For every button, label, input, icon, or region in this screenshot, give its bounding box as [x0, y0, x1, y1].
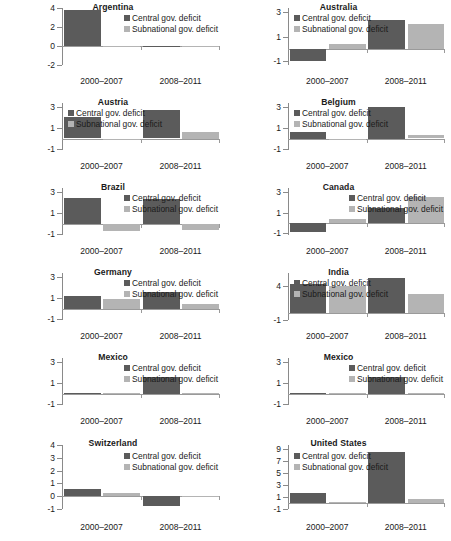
bar-subnational-1 — [329, 502, 365, 503]
legend: Central gov. deficitSubnational gov. def… — [124, 363, 218, 384]
y-axis-line — [62, 358, 63, 405]
legend-label: Central gov. deficit — [357, 363, 426, 374]
x-tick — [444, 223, 445, 227]
y-tick-label: 7 — [276, 456, 281, 466]
y-tick — [283, 449, 288, 450]
y-tick-label: 1 — [276, 378, 281, 388]
legend-item-sub: Subnational gov. deficit — [349, 204, 443, 215]
y-tick-label: -1 — [273, 144, 281, 154]
y-tick-label: 0 — [50, 491, 55, 501]
x-axis-label-2: 2008–2011 — [385, 76, 427, 86]
y-tick — [283, 473, 288, 474]
y-tick-label: 3 — [50, 453, 55, 463]
x-tick — [141, 224, 142, 228]
x-axis-label-1: 2000–2007 — [80, 416, 123, 426]
legend-label: Subnational gov. deficit — [302, 462, 388, 473]
x-tick — [219, 496, 220, 500]
y-tick-label: 3 — [50, 187, 55, 197]
bar-subnational-2 — [408, 499, 444, 503]
legend-item-central: Central gov. deficit — [124, 13, 218, 24]
y-tick-label: 1 — [276, 208, 281, 218]
y-tick — [57, 298, 62, 299]
x-axis-label-1: 2000–2007 — [306, 76, 349, 86]
legend-item-sub: Subnational gov. deficit — [294, 24, 388, 35]
y-tick — [57, 149, 62, 150]
bar-subnational-2 — [408, 24, 444, 49]
chart-panel-australia: Australia31-12000–20072008–2011Central g… — [226, 0, 451, 95]
x-tick — [141, 309, 142, 313]
y-tick — [57, 383, 62, 384]
y-tick-label: -2 — [47, 60, 55, 70]
legend-label: Central gov. deficit — [76, 108, 145, 119]
bar-central-1 — [290, 49, 326, 61]
bar-subnational-1 — [103, 139, 140, 140]
bar-central-2 — [143, 496, 180, 506]
y-tick-label: -1 — [47, 229, 55, 239]
y-tick-label: -1 — [47, 504, 55, 514]
legend: Central gov. deficitSubnational gov. def… — [294, 451, 388, 472]
legend-swatch-sub-icon — [124, 291, 130, 297]
legend-item-central: Central gov. deficit — [294, 451, 388, 462]
chart-panel-germany: Germany31-12000–20072008–2011Central gov… — [0, 265, 226, 350]
x-tick — [367, 313, 368, 317]
x-axis-label-2: 2008–2011 — [385, 246, 427, 256]
chart-panel-belgium: Belgium31-12000–20072008–2011Central gov… — [226, 95, 451, 180]
legend-label: Central gov. deficit — [132, 193, 201, 204]
chart-panel-united-states: United States97531-12000–20072008–2011Ce… — [226, 435, 451, 541]
y-tick-label: 1 — [50, 208, 55, 218]
legend-swatch-central-icon — [68, 110, 74, 116]
y-tick-label: 3 — [276, 480, 281, 490]
y-tick-label: 1 — [276, 123, 281, 133]
bar-subnational-2 — [408, 135, 444, 139]
bar-subnational-1 — [103, 46, 140, 47]
legend-label: Subnational gov. deficit — [302, 24, 388, 35]
y-tick — [57, 319, 62, 320]
legend-item-sub: Subnational gov. deficit — [124, 204, 218, 215]
y-tick — [283, 128, 288, 129]
chart-panel-austria: Austria31-12000–20072008–2011Central gov… — [0, 95, 226, 180]
bar-subnational-2 — [182, 132, 219, 138]
x-tick — [219, 309, 220, 313]
x-axis-label-1: 2000–2007 — [80, 331, 123, 341]
legend: Central gov. deficitSubnational gov. def… — [294, 13, 388, 34]
chart-panel-argentina: Argentina420-22000–20072008–2011Central … — [0, 0, 226, 95]
legend: Central gov. deficitSubnational gov. def… — [68, 108, 162, 129]
legend-item-central: Central gov. deficit — [294, 13, 388, 24]
y-tick — [283, 485, 288, 486]
y-tick — [57, 65, 62, 66]
legend: Central gov. deficitSubnational gov. def… — [124, 13, 218, 34]
x-axis-label-2: 2008–2011 — [160, 416, 202, 426]
legend-label: Central gov. deficit — [357, 193, 426, 204]
bar-central-1 — [64, 10, 101, 46]
legend-swatch-sub-icon — [349, 376, 355, 382]
legend-swatch-sub-icon — [124, 376, 130, 382]
x-tick — [367, 394, 368, 398]
legend-item-central: Central gov. deficit — [68, 108, 162, 119]
x-axis-label-2: 2008–2011 — [160, 246, 202, 256]
legend-label: Central gov. deficit — [302, 278, 371, 289]
legend: Central gov. deficitSubnational gov. def… — [124, 193, 218, 214]
legend-item-sub: Subnational gov. deficit — [124, 24, 218, 35]
y-tick — [283, 461, 288, 462]
y-tick-label: 4 — [50, 440, 55, 450]
bar-subnational-1 — [103, 493, 140, 496]
y-tick — [57, 27, 62, 28]
legend-label: Subnational gov. deficit — [357, 374, 443, 385]
x-tick — [141, 46, 142, 50]
y-tick — [57, 509, 62, 510]
legend-swatch-central-icon — [294, 15, 300, 21]
x-axis-label-1: 2000–2007 — [80, 522, 123, 532]
y-tick — [57, 483, 62, 484]
x-tick — [444, 394, 445, 398]
x-tick — [367, 223, 368, 227]
y-tick — [57, 362, 62, 363]
x-axis-label-2: 2008–2011 — [160, 161, 202, 171]
y-axis-line — [62, 445, 63, 509]
x-axis-label-1: 2000–2007 — [80, 246, 123, 256]
legend-swatch-central-icon — [294, 280, 300, 286]
y-tick-label: -1 — [273, 399, 281, 409]
legend-swatch-central-icon — [124, 365, 130, 371]
legend-label: Subnational gov. deficit — [302, 289, 388, 300]
chart-panel-mexico: Mexico31-12000–20072008–2011Central gov.… — [226, 350, 451, 435]
y-tick — [57, 404, 62, 405]
